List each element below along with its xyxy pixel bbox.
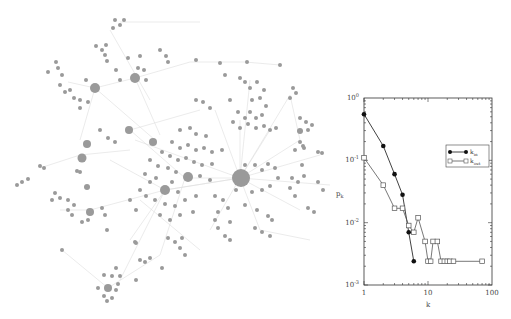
minor-nodes <box>15 18 325 303</box>
hub-node <box>125 126 133 134</box>
chart-legend: kinkout <box>446 145 489 167</box>
hub-node <box>90 83 100 93</box>
series-line-k_in <box>364 114 414 261</box>
data-point <box>412 230 417 235</box>
y-tick-label: 100 <box>347 92 359 102</box>
y-tick-label: 10-2 <box>345 217 359 227</box>
hub-node <box>83 140 91 148</box>
chart-series <box>362 112 485 264</box>
data-point <box>416 215 421 220</box>
hub-node <box>183 172 193 182</box>
legend-box <box>446 145 489 167</box>
degree-distribution-chart: 11010010010-110-210-3kpk kinkout <box>330 85 511 310</box>
data-point <box>362 112 367 117</box>
series-line-k_out <box>364 158 482 262</box>
y-axis-label: pk <box>336 190 344 199</box>
hub-node <box>86 208 94 216</box>
y-tick-label: 10-3 <box>345 279 359 289</box>
data-point <box>406 230 411 235</box>
hub-node <box>149 138 157 146</box>
y-tick-label: 10-1 <box>345 154 359 164</box>
plot-frame <box>364 98 492 285</box>
data-point <box>400 192 405 197</box>
hub-node <box>130 73 140 83</box>
chart-axes: 11010010010-110-210-3kpk <box>336 92 499 309</box>
data-point <box>381 144 386 149</box>
data-point <box>392 206 397 211</box>
data-point <box>362 155 367 160</box>
data-point <box>406 223 411 228</box>
hub-node <box>78 154 87 163</box>
figure-caption-fragment <box>0 312 511 319</box>
hub-node <box>232 169 250 187</box>
data-point <box>480 259 485 264</box>
hub-node <box>104 284 112 292</box>
x-axis-label: k <box>426 301 431 309</box>
data-point <box>431 239 436 244</box>
x-tick-label: 100 <box>485 289 498 297</box>
network-nodes <box>15 18 325 303</box>
data-point <box>400 206 405 211</box>
hub-node <box>160 185 170 195</box>
data-point <box>412 259 417 264</box>
data-point <box>451 259 456 264</box>
x-tick-label: 1 <box>362 289 366 297</box>
data-point <box>423 239 428 244</box>
network-graph <box>0 0 340 310</box>
x-tick-label: 10 <box>424 289 433 297</box>
data-point <box>381 183 386 188</box>
data-point <box>435 239 440 244</box>
data-point <box>392 172 397 177</box>
data-point <box>428 259 433 264</box>
